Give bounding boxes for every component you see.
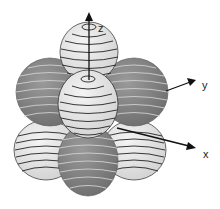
lobe-upper-front — [58, 70, 118, 138]
y-axis-label: y — [202, 79, 208, 91]
z-axis-label: z — [98, 22, 104, 34]
x-axis-label: x — [203, 148, 209, 160]
orbital-diagram — [0, 0, 220, 209]
axis-y — [166, 78, 196, 91]
